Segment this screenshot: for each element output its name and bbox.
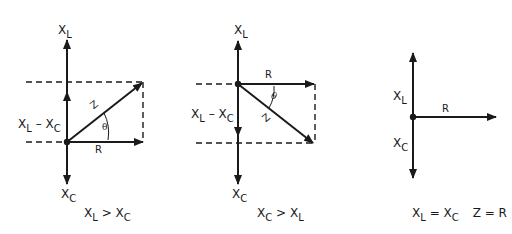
label-xl-top: XL xyxy=(234,24,248,40)
caption-xl-equals-xc: XL = XCZ = R xyxy=(412,207,507,223)
origin-dot xyxy=(64,139,70,145)
phasor-diagrams-canvas xyxy=(0,0,512,234)
label-r: R xyxy=(265,70,272,80)
label-xl-minus-xc: XL – XC xyxy=(191,108,234,124)
label-xl-top: XL xyxy=(58,24,72,40)
origin-dot xyxy=(235,81,241,87)
label-xl: XL xyxy=(393,90,407,106)
label-r: R xyxy=(442,104,449,114)
diagram-xl-greater xyxy=(26,40,143,184)
label-xc: XC xyxy=(393,137,408,153)
caption-z-equals-r: Z = R xyxy=(473,206,507,220)
z-vector xyxy=(67,83,142,142)
label-xc-bottom: XC xyxy=(232,188,247,204)
label-r: R xyxy=(95,145,102,155)
diagram-xl-equals-xc xyxy=(410,53,496,178)
caption-xl-greater-xc: XL > XC xyxy=(84,207,131,223)
label-theta: θ xyxy=(102,123,107,132)
caption-xc-greater-xl: XC > XL xyxy=(257,207,304,223)
origin-dot xyxy=(410,114,416,120)
label-xc-bottom: XC xyxy=(61,188,76,204)
label-xl-minus-xc: XL – XC xyxy=(18,118,61,134)
